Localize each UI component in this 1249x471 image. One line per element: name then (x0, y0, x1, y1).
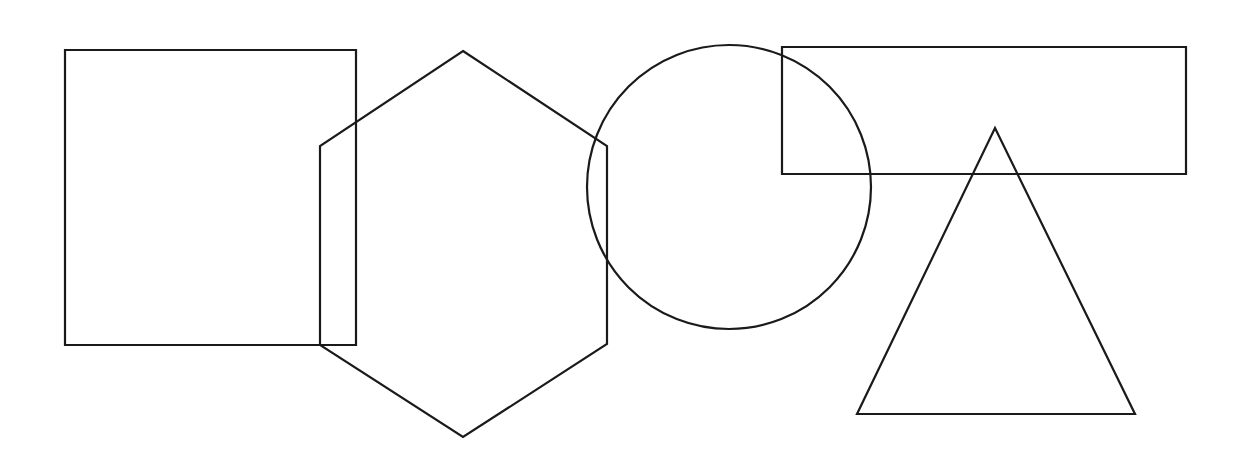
hexagon-shape (320, 51, 607, 437)
circle-shape (587, 45, 871, 329)
shapes-svg (0, 0, 1249, 471)
triangle-shape (857, 128, 1135, 414)
rectangle-shape (782, 47, 1186, 174)
square-shape (65, 50, 356, 345)
drawing-canvas (0, 0, 1249, 471)
